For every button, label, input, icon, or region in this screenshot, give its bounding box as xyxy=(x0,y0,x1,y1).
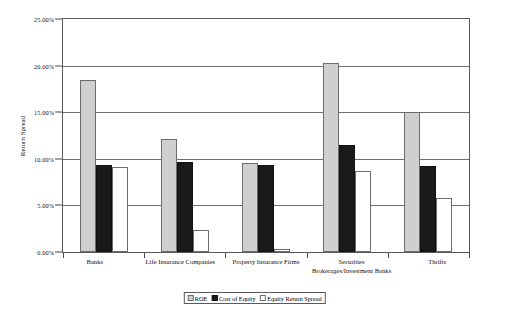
x-axis-label-4: Thrifts xyxy=(394,258,480,290)
legend-item-spread[interactable]: Equity Return Spread xyxy=(260,295,322,302)
y-tick-label: 20.00% xyxy=(34,62,54,69)
y-tick-label: 5.00% xyxy=(37,202,54,209)
bar-coe xyxy=(177,162,193,252)
y-tick-label: 10.00% xyxy=(34,155,54,162)
legend-item-roe[interactable]: ROE xyxy=(187,295,207,302)
x-axis-label-3: Securities Brokerages/Investment Banks xyxy=(309,258,395,290)
bar-coe xyxy=(420,166,436,252)
x-axis-label-1: Life Insurance Companies xyxy=(138,258,224,290)
legend-swatch-roe-icon xyxy=(187,295,193,301)
y-tick-mark xyxy=(55,19,62,20)
bar-group xyxy=(388,19,469,252)
y-tick-mark xyxy=(55,158,62,159)
bar-roe xyxy=(242,163,258,252)
bar-roe xyxy=(323,63,339,252)
bar-group xyxy=(225,19,306,252)
bar-group xyxy=(63,19,144,252)
bar-spread xyxy=(274,249,290,252)
chart-legend: ROECost of EquityEquity Return Spread xyxy=(183,292,325,304)
bar-groups xyxy=(63,19,469,252)
x-axis-labels: BanksLife Insurance CompaniesProperty In… xyxy=(52,258,480,290)
x-axis-label-2: Property Insurance Firms xyxy=(223,258,309,290)
bar-spread xyxy=(355,171,371,252)
y-tick-mark xyxy=(55,65,62,66)
y-tick-mark xyxy=(55,112,62,113)
y-axis: 0.00%5.00%10.00%15.00%20.00%25.00% xyxy=(0,18,62,253)
bar-coe xyxy=(258,165,274,252)
figure-caption xyxy=(28,312,53,318)
x-axis-label-0: Banks xyxy=(52,258,138,290)
y-tick-mark xyxy=(55,252,62,253)
bar-roe xyxy=(161,139,177,252)
bar-coe xyxy=(96,165,112,252)
y-tick-label: 15.00% xyxy=(34,109,54,116)
legend-swatch-coe-icon xyxy=(211,295,217,301)
y-tick-label: 0.00% xyxy=(37,249,54,256)
bar-spread xyxy=(112,167,128,252)
bar-spread xyxy=(436,198,452,252)
legend-item-coe[interactable]: Cost of Equity xyxy=(211,295,255,302)
bar-roe xyxy=(80,80,96,252)
legend-label: Cost of Equity xyxy=(219,295,256,302)
y-tick-label: 25.00% xyxy=(34,16,54,23)
chart-figure: Return Spread 0.00%5.00%10.00%15.00%20.0… xyxy=(0,0,509,326)
bar-group xyxy=(307,19,388,252)
legend-label: ROE xyxy=(195,295,208,302)
bar-roe xyxy=(404,112,420,252)
bar-group xyxy=(144,19,225,252)
y-tick-mark xyxy=(55,205,62,206)
legend-label: Equity Return Spread xyxy=(267,295,322,302)
legend-swatch-spread-icon xyxy=(260,295,266,301)
bar-coe xyxy=(339,145,355,252)
bar-spread xyxy=(193,230,209,252)
